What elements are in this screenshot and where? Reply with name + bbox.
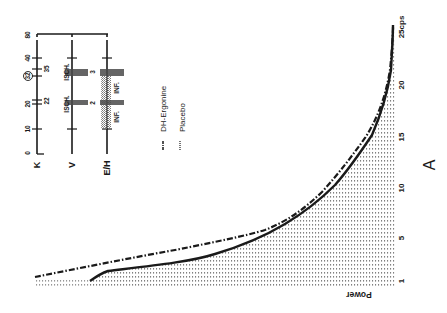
- freq-tick-10: 10: [397, 183, 406, 192]
- placebo-fill: [90, 26, 396, 286]
- freq-tick-20: 20: [397, 80, 406, 89]
- inset-scale-20: 20: [24, 100, 31, 108]
- power-axis-label: Power: [346, 290, 372, 300]
- legend: DH-Ergonine Placebo: [159, 85, 187, 150]
- freq-tick-1: 1: [397, 278, 406, 283]
- freq-axis: 1 5 10 15 20 25cps: [397, 15, 406, 283]
- inset-k-32: 32: [24, 72, 31, 80]
- inset-k-22: 22: [43, 97, 50, 105]
- freq-tick-15: 15: [397, 132, 406, 141]
- inset-eh-inf-upper: INF.: [113, 82, 120, 94]
- inset-scale-80: 80: [24, 31, 31, 39]
- figure: 1 5 10 15 20 25cps A Power DH-Ergonine P…: [0, 0, 447, 313]
- inset-scale-0: 0: [24, 151, 31, 155]
- inset-scale-40: 40: [24, 54, 31, 62]
- inset-v-isch-3: ISCH.: [63, 63, 70, 81]
- legend-placebo: Placebo: [178, 103, 187, 132]
- freq-tick-5: 5: [397, 235, 406, 240]
- inset-row-eh: E/H: [102, 160, 112, 175]
- inset-scale-10: 10: [24, 125, 31, 133]
- inset-v-marker-2: 2: [89, 101, 96, 105]
- inset-v-marker-3: 3: [89, 70, 96, 74]
- freq-tick-25cps: 25cps: [397, 15, 406, 38]
- inset-v-isch-2: ISCH.: [63, 95, 70, 113]
- panel-letter: A: [421, 159, 438, 170]
- inset-eh-bar-3: [100, 69, 124, 76]
- inset-k-35: 35: [43, 65, 50, 73]
- inset-row-k: K: [32, 161, 42, 168]
- chart-svg: 1 5 10 15 20 25cps A Power DH-Ergonine P…: [0, 0, 447, 313]
- inset-row-v: V: [67, 162, 77, 168]
- inset-diagram: 80 40 32 20 10 0 35 22 ISCH. ISCH. 3 2 I…: [24, 31, 125, 176]
- legend-dh-ergonine: DH-Ergonine: [159, 85, 168, 132]
- low-freq-fill: [35, 278, 90, 286]
- inset-eh-bar-2: [100, 100, 124, 105]
- inset-eh-inf-lower: INF.: [113, 111, 120, 123]
